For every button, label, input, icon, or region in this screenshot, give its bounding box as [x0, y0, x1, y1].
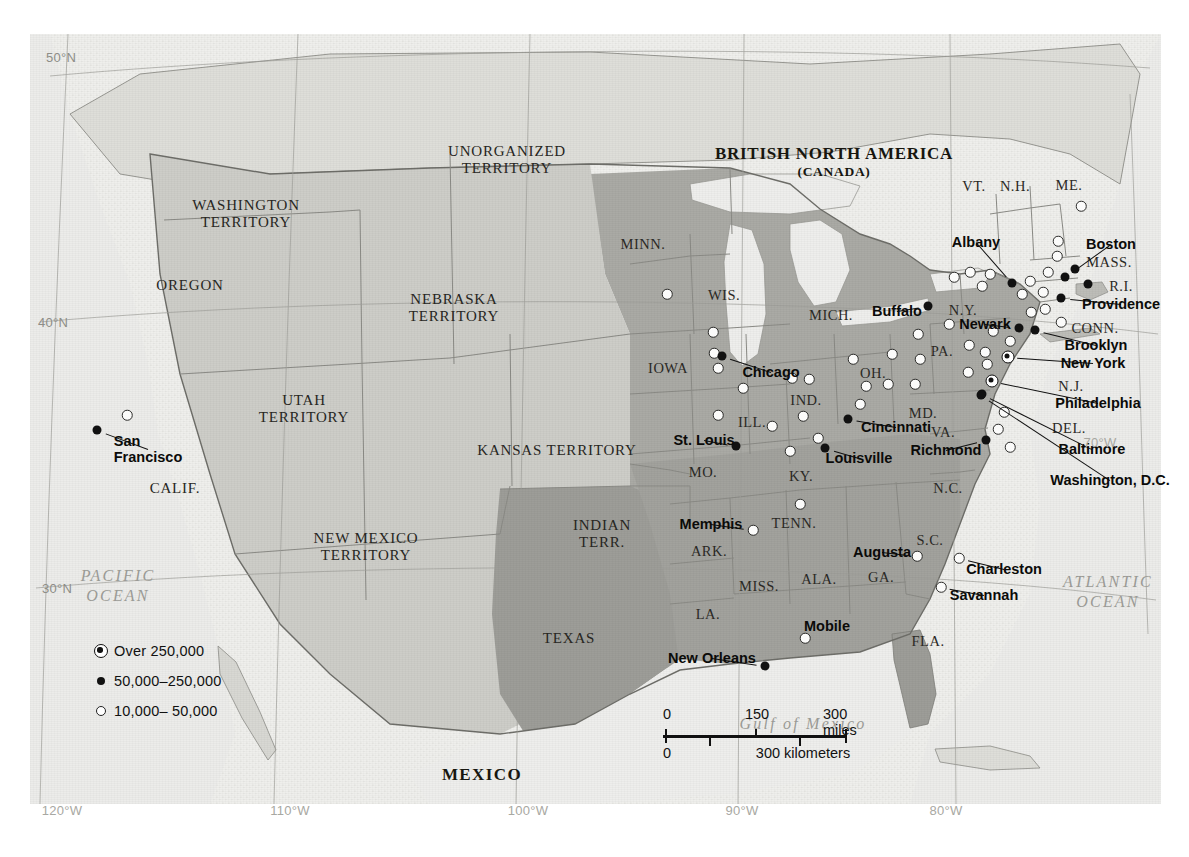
10000-50000-icon	[88, 706, 114, 717]
leader-line-louisville	[833, 451, 859, 460]
state-abbr-tenn: TENN.	[772, 515, 817, 532]
scale-miles-labels: 0 150 300 miles	[663, 706, 913, 726]
city-label-cincinnati: Cincinnati	[861, 419, 931, 435]
longitude-label-110W: 110°W	[270, 803, 310, 818]
city-dot	[662, 289, 673, 300]
city-label-memphis: Memphis	[680, 516, 743, 532]
map-page: BRITISH NORTH AMERICA(CANADA)PACIFICOCEA…	[0, 0, 1189, 857]
state-abbr-pa: PA.	[931, 343, 953, 360]
leader-line-buffalo	[897, 307, 919, 312]
legend-item: 10,000– 50,000	[88, 696, 222, 726]
territory-label-washington: WASHINGTONTERRITORY	[192, 197, 300, 232]
water-label-pacific-ocean: PACIFICOCEAN	[81, 566, 156, 606]
city-dot-augusta	[912, 551, 923, 562]
territory-label-indian: INDIANTERR.	[573, 517, 631, 552]
city-dot-new-orleans	[761, 662, 770, 671]
leader-line-memphis	[711, 524, 744, 530]
state-abbr-ind: IND.	[790, 392, 821, 409]
city-dot	[1040, 304, 1051, 315]
scale-ruler	[663, 729, 913, 743]
territory-label-kansas-territory: KANSAS TERRITORY	[477, 442, 636, 459]
city-dot-mobile	[800, 633, 811, 644]
city-label-new-york: New York	[1061, 355, 1126, 371]
city-label-philadelphia: Philadelphia	[1055, 395, 1140, 411]
state-abbr-nh: N.H.	[1000, 178, 1030, 195]
water-label-atlantic-ocean: ATLANTICOCEAN	[1063, 572, 1153, 612]
city-dot	[813, 433, 824, 444]
city-label-providence: Providence	[1082, 296, 1160, 312]
city-dot	[738, 383, 749, 394]
over-250000-icon	[88, 644, 114, 658]
city-label-brooklyn: Brooklyn	[1065, 337, 1128, 353]
city-dot-savannah	[936, 582, 947, 593]
city-dot	[883, 379, 894, 390]
city-dot	[944, 319, 955, 330]
state-abbr-ny: N.Y.	[949, 302, 977, 319]
state-abbr-nj: N.J.	[1058, 378, 1083, 395]
state-abbr-ark: ARK.	[691, 543, 727, 560]
city-dot	[785, 446, 796, 457]
city-dot	[787, 373, 798, 384]
territory-label-oregon: OREGON	[156, 277, 223, 294]
city-dot	[795, 499, 806, 510]
city-dot	[913, 329, 924, 340]
territory-label-utah: UTAHTERRITORY	[259, 392, 349, 427]
city-dot	[1056, 317, 1067, 328]
leader-line-brooklyn	[1044, 332, 1097, 346]
city-dot	[993, 424, 1004, 435]
city-dot-new-york	[1002, 351, 1015, 364]
city-label-augusta: Augusta	[853, 544, 911, 560]
city-dot-st-louis	[732, 442, 741, 451]
city-dot-san-francisco	[93, 426, 102, 435]
city-label-washington-d-c: Washington, D.C.	[1050, 472, 1169, 488]
city-dot	[1026, 307, 1037, 318]
state-abbr-me: ME.	[1056, 177, 1083, 194]
city-label-mobile: Mobile	[804, 618, 850, 634]
legend-label: Over 250,000	[114, 643, 204, 659]
leader-line-richmond	[946, 442, 978, 451]
scale-km-tick: 300 kilometers	[756, 745, 850, 761]
state-abbr-vt: VT.	[962, 178, 985, 195]
state-abbr-ala: ALA.	[801, 571, 836, 588]
scale-km-tick: 0	[663, 745, 671, 761]
city-dot	[999, 407, 1010, 418]
territory-label-texas: TEXAS	[543, 630, 595, 647]
city-dot	[848, 354, 859, 365]
city-dot	[861, 381, 872, 392]
city-dot	[988, 326, 999, 337]
city-dot-cincinnati	[844, 415, 853, 424]
city-dot	[915, 354, 926, 365]
city-label-richmond: Richmond	[911, 442, 982, 458]
city-dot	[980, 347, 991, 358]
city-dot	[949, 272, 960, 283]
leader-line-augusta	[882, 552, 908, 556]
city-label-louisville: Louisville	[826, 450, 893, 466]
city-dot	[713, 410, 724, 421]
city-dot	[1043, 267, 1054, 278]
city-dot-newark	[1015, 324, 1024, 333]
leader-line-st-louis	[704, 440, 727, 445]
50000-250000-icon	[88, 677, 114, 686]
leader-line-chicago	[730, 359, 771, 373]
city-dot-charleston	[954, 553, 965, 564]
state-abbr-ga: GA.	[868, 569, 894, 586]
state-abbr-sc: S.C.	[917, 532, 944, 549]
city-dot	[1052, 251, 1063, 262]
city-dot	[985, 269, 996, 280]
longitude-label-100W: 100°W	[508, 803, 549, 818]
state-abbr-ill: ILL.	[738, 414, 766, 431]
city-dot	[910, 379, 921, 390]
city-dot	[855, 399, 866, 410]
city-dot	[964, 340, 975, 351]
state-abbr-conn: CONN.	[1071, 320, 1118, 337]
scale-bar: 0 150 300 miles 0 300 kilometers	[663, 706, 913, 765]
city-dot	[977, 281, 988, 292]
city-dot	[1005, 442, 1016, 453]
population-legend: Over 250,000 50,000–250,000 10,000– 50,0…	[88, 636, 222, 726]
city-dot-richmond	[982, 436, 991, 445]
city-dot	[708, 327, 719, 338]
state-abbr-minn: MINN.	[621, 236, 666, 253]
territory-label-nebraska: NEBRASKATERRITORY	[409, 291, 499, 326]
city-label-charleston: Charleston	[966, 561, 1042, 577]
state-abbr-del: DEL.	[1052, 420, 1086, 437]
